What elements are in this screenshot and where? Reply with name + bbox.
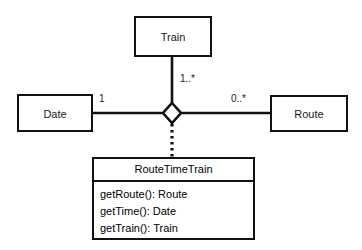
class-header-routetimetrain: RouteTimeTrain xyxy=(94,159,253,182)
class-box-train[interactable]: Train xyxy=(134,16,212,57)
multiplicity-label-date-end: 1 xyxy=(99,93,105,104)
class-methods-compartment: getRoute(): Route getTime(): Date getTra… xyxy=(94,182,253,238)
class-name-routetimetrain: RouteTimeTrain xyxy=(94,163,253,175)
multiplicity-label-route-end: 0..* xyxy=(231,93,246,104)
uml-class-diagram-canvas: Train Date Route RouteTimeTrain getRoute… xyxy=(0,0,362,250)
class-box-route[interactable]: Route xyxy=(270,95,348,132)
aggregation-diamond-icon xyxy=(163,103,181,123)
class-box-date[interactable]: Date xyxy=(17,94,93,132)
method-get-train: getTrain(): Train xyxy=(100,220,253,237)
class-name-train: Train xyxy=(136,31,210,43)
class-name-date: Date xyxy=(19,108,91,120)
method-get-route: getRoute(): Route xyxy=(100,186,253,203)
method-get-time: getTime(): Date xyxy=(100,203,253,220)
class-box-routetimetrain[interactable]: RouteTimeTrain getRoute(): Route getTime… xyxy=(92,157,255,240)
class-name-route: Route xyxy=(272,108,346,120)
multiplicity-label-train-end: 1..* xyxy=(180,73,195,84)
